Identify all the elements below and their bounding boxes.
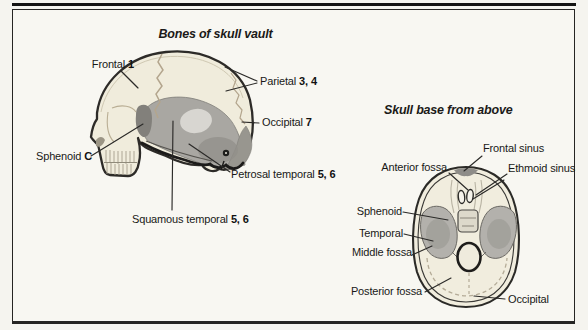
label-anterior-fossa: Anterior fossa: [357, 161, 447, 174]
label-frontal-sinus: Frontal sinus: [483, 142, 544, 155]
ear-canal-inner: [225, 152, 227, 154]
label-squamous-temporal: Squamous temporal5, 6: [132, 213, 249, 226]
label-frontal: Frontal1: [60, 58, 134, 71]
label-occipital-base: Occipital: [508, 293, 549, 306]
right-diagram-title: Skull base from above: [384, 103, 513, 117]
left-diagram-title: Bones of skull vault: [133, 27, 298, 41]
anatomy-illustrations: [0, 0, 588, 330]
label-sphenoid-c: SphenoidC: [36, 150, 92, 163]
label-ethmoid-sinus: Ethmoid sinus: [508, 162, 575, 175]
middle-fossa-right-depth: [487, 219, 511, 249]
label-occipital-7: Occipital7: [262, 116, 312, 129]
scanned-figure-page: Skull bones: [0, 0, 588, 330]
label-posterior-fossa: Posterior fossa: [330, 285, 422, 298]
label-middle-fossa: Middle fossa: [330, 246, 412, 259]
label-parietal: Parietal3, 4: [260, 75, 317, 88]
label-temporal-base: Temporal: [330, 227, 403, 240]
middle-fossa-left-depth: [426, 219, 450, 249]
label-petrosal-temporal: Petrosal temporal5, 6: [231, 168, 335, 181]
label-sphenoid-base: Sphenoid: [330, 205, 402, 218]
sphenoid-body: [458, 210, 478, 232]
foramen-magnum: [458, 243, 481, 271]
